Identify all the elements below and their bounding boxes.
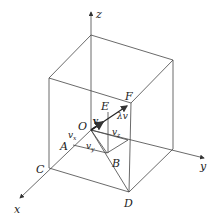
point-label-f: F (124, 90, 133, 103)
label-v-z: vz (112, 127, 121, 138)
box-edge-front (129, 103, 131, 192)
point-label-d: D (123, 197, 133, 210)
axis-label-z: z (95, 8, 102, 21)
axis-label-y: y (199, 160, 207, 173)
box-edge-bottom-d-right (129, 149, 173, 192)
label-lambda-v: λv (116, 111, 128, 121)
point-label-a: A (59, 140, 68, 153)
point-label-c: C (36, 163, 45, 176)
inner-line-vz-b (107, 140, 128, 153)
box-top-face (49, 35, 173, 103)
point-label-o: O (78, 120, 87, 133)
label-v-x: vx (68, 130, 77, 141)
x-axis (20, 130, 91, 198)
vector-box-diagram: z x y O E F A B C D v λv vx vy vz (0, 0, 216, 217)
diagram-canvas: z x y O E F A B C D v λv vx vy vz (0, 0, 216, 217)
label-v-y: vy (86, 141, 95, 153)
box-edge-bottom-cd (49, 168, 129, 192)
axis-label-x: x (14, 203, 21, 216)
point-label-b: B (111, 157, 120, 170)
point-label-e: E (100, 100, 109, 113)
label-v: v (92, 116, 99, 126)
